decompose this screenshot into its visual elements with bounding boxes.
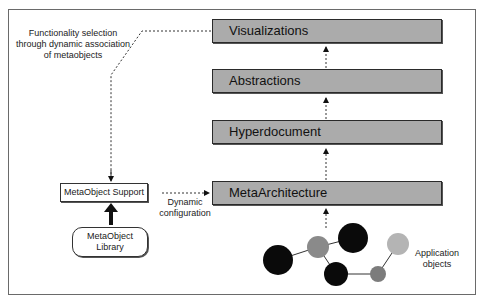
node-mid-2	[370, 266, 386, 282]
layer-label: Visualizations	[229, 23, 308, 38]
application-objects-note: Application objects	[412, 248, 462, 270]
layer-label: Hyperdocument	[229, 124, 321, 139]
note-line: Application	[412, 248, 462, 259]
note-line: configuration	[156, 208, 214, 219]
note-line: through dynamic association	[14, 39, 132, 50]
metaobject-support-box: MetaObject Support	[60, 183, 148, 202]
functionality-selection-note: Functionality selection through dynamic …	[14, 28, 132, 61]
note-line: objects	[412, 259, 462, 270]
note-line: Dynamic	[156, 197, 214, 208]
note-line: Functionality selection	[14, 28, 132, 39]
layer-abstractions: Abstractions	[212, 69, 442, 93]
node-dark-1	[263, 245, 293, 275]
node-dark-3	[324, 262, 348, 286]
layer-hyperdocument: Hyperdocument	[212, 120, 442, 144]
library-line-1: MetaObject	[73, 231, 147, 242]
dynamic-configuration-note: Dynamic configuration	[156, 197, 214, 219]
layer-metaarchitecture: MetaArchitecture	[212, 181, 442, 205]
library-line-2: Library	[73, 242, 147, 253]
note-line: of metaobjects	[14, 50, 132, 61]
layer-label: MetaArchitecture	[229, 185, 327, 200]
layer-visualizations: Visualizations	[212, 19, 442, 43]
node-mid-1	[307, 236, 329, 258]
node-dark-2	[338, 223, 368, 253]
metaobject-library-box: MetaObject Library	[72, 227, 148, 257]
layer-label: Abstractions	[229, 73, 301, 88]
application-objects-graph	[263, 223, 409, 286]
node-light-1	[387, 233, 409, 255]
library-to-support-arrow	[104, 203, 118, 225]
